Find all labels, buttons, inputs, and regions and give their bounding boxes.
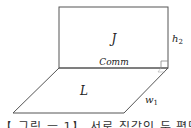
right-angle-marker	[161, 61, 168, 68]
plane-J-label: J	[109, 32, 118, 46]
caption-text: 【 그림 ㅡ 1】 서로 직각인 두 평면	[0, 121, 191, 128]
shared-edge-label: Comm	[99, 57, 128, 67]
plane-L-label: L	[79, 84, 88, 98]
horizontal-plane-L	[13, 68, 168, 113]
right-angle-marker-floor	[158, 68, 165, 72]
height-label: h2	[172, 33, 183, 46]
width-label: w1	[145, 94, 158, 107]
caption-clipped: 【 그림 ㅡ 1】 서로 직각인 두 평면	[0, 121, 191, 128]
planes-diagram: J Comm L h2 w1	[0, 0, 191, 128]
